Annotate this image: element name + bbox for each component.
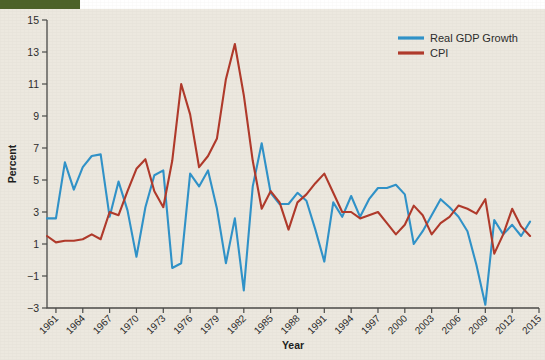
x-tick-label: 1997 (359, 312, 383, 336)
line-chart-canvas: −3−1135791113151961196419671970197319761… (0, 0, 545, 360)
x-axis-title: Year (282, 339, 304, 351)
x-tick-label: 2000 (386, 312, 410, 336)
x-tick-label: 1970 (117, 312, 141, 336)
y-tick-label: −3 (27, 302, 39, 314)
x-tick-label: 1964 (64, 312, 88, 336)
x-tick-label: 2006 (439, 312, 463, 336)
x-tick-label: 2009 (466, 312, 490, 336)
x-tick-label: 1988 (278, 312, 302, 336)
y-tick-label: 15 (27, 14, 39, 26)
plot-area (47, 20, 539, 308)
y-tick-label: 7 (33, 142, 39, 154)
x-tick-label: 1985 (252, 312, 276, 336)
y-tick-label: 11 (28, 78, 39, 90)
x-tick-label: 1991 (305, 312, 329, 336)
x-tick-label: 1979 (198, 312, 222, 336)
x-tick-label: 1994 (332, 312, 356, 336)
y-tick-label: 1 (33, 238, 39, 250)
y-tick-label: 5 (33, 174, 39, 186)
x-tick-label: 2015 (520, 312, 544, 336)
chart-figure: −3−1135791113151961196419671970197319761… (0, 0, 545, 360)
y-tick-label: 9 (33, 110, 39, 122)
legend-label-0: Real GDP Growth (430, 32, 518, 44)
x-tick-label: 1967 (91, 312, 115, 336)
y-tick-label: −1 (27, 270, 39, 282)
x-tick-label: 1973 (144, 312, 168, 336)
x-tick-label: 1982 (225, 312, 249, 336)
y-axis-title: Percent (6, 144, 18, 183)
x-tick-label: 2003 (413, 312, 437, 336)
y-tick-label: 3 (33, 206, 39, 218)
y-tick-label: 13 (27, 46, 39, 58)
x-tick-label: 1961 (37, 312, 61, 336)
x-tick-label: 1976 (171, 312, 195, 336)
legend-label-1: CPI (430, 47, 448, 59)
x-tick-label: 2012 (493, 312, 517, 336)
